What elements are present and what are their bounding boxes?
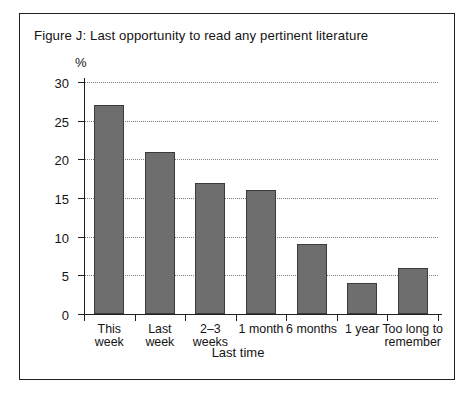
x-axis-tick [236, 314, 237, 321]
plot-area: 051015202530 ThisweekLastweek2–3weeks1 m… [84, 82, 438, 314]
y-axis-tick-label: 25 [55, 114, 69, 129]
gridline [84, 159, 438, 160]
bar [398, 268, 428, 314]
y-axis-line [84, 78, 85, 318]
bar [246, 190, 276, 314]
x-axis-title: Last time [20, 345, 456, 360]
gridline [84, 82, 438, 83]
x-axis-tick [387, 314, 388, 321]
x-axis-tick [84, 314, 85, 321]
y-axis-unit-label: % [75, 55, 87, 70]
x-axis-tick [438, 314, 439, 321]
y-axis-tick-label: 15 [55, 192, 69, 207]
y-axis-tick-label: 5 [62, 269, 69, 284]
figure-frame: Figure J: Last opportunity to read any p… [19, 13, 455, 380]
gridline [84, 121, 438, 122]
y-axis-tick-label: 20 [55, 153, 69, 168]
x-axis-tick [286, 314, 287, 321]
y-axis-tick-label: 10 [55, 230, 69, 245]
bar [145, 152, 175, 314]
x-axis-tick [337, 314, 338, 321]
bar [195, 183, 225, 314]
bar [347, 283, 377, 314]
y-axis-tick-label: 30 [55, 76, 69, 91]
bar [94, 105, 124, 314]
figure-title: Figure J: Last opportunity to read any p… [34, 28, 368, 43]
x-axis-tick [135, 314, 136, 321]
y-axis-tick-label: 0 [62, 308, 69, 323]
x-axis-tick [185, 314, 186, 321]
bar [297, 244, 327, 314]
